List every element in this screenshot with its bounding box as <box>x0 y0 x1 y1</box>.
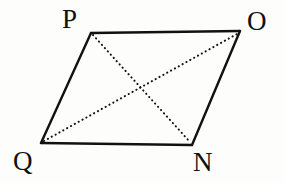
diagonal-P-N <box>93 35 190 142</box>
edge-N-Q <box>41 143 192 145</box>
parallelogram-svg <box>0 0 284 183</box>
vertex-label-o: O <box>247 8 267 35</box>
vertex-label-p: P <box>62 6 77 33</box>
edge-O-N <box>192 31 240 145</box>
vertex-label-n: N <box>193 149 213 176</box>
edge-P-O <box>91 31 240 33</box>
geometry-figure: P O N Q <box>0 0 284 183</box>
vertex-label-q: Q <box>13 148 33 175</box>
diagonal-Q-O <box>44 34 237 141</box>
edge-Q-P <box>41 33 91 143</box>
